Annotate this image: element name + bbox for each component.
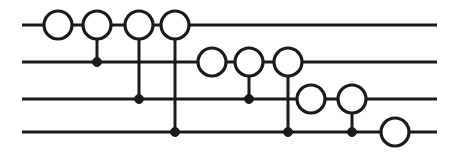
control-dot-icon xyxy=(348,128,357,137)
gate-circle-icon xyxy=(161,11,189,39)
wire-layer xyxy=(22,25,437,132)
gate-circle-icon xyxy=(83,11,111,39)
gate-layer xyxy=(44,11,409,146)
quantum-circuit-diagram xyxy=(0,0,458,158)
gate-circle-icon xyxy=(125,11,153,39)
control-dot-icon xyxy=(284,128,293,137)
circuit-canvas xyxy=(0,0,458,158)
control-dot-icon xyxy=(93,58,102,67)
control-dot-icon xyxy=(135,95,144,104)
control-dot-icon xyxy=(245,95,254,104)
gate-circle-icon xyxy=(44,11,72,39)
control-dot-icon xyxy=(171,128,180,137)
gate-circle-icon xyxy=(338,85,366,113)
gate-circle-icon xyxy=(381,118,409,146)
connector-layer xyxy=(97,25,352,132)
gate-circle-icon xyxy=(297,85,325,113)
gate-circle-icon xyxy=(198,48,226,76)
gate-circle-icon xyxy=(235,48,263,76)
gate-circle-icon xyxy=(274,48,302,76)
